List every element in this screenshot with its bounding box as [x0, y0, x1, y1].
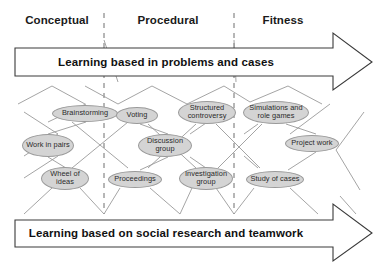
node-investigation-group[interactable]: Investigation group — [179, 167, 233, 190]
node-work-in-pairs[interactable]: Work in pairs — [22, 134, 74, 157]
column-header-procedural: Procedural — [110, 14, 226, 26]
node-proceedings[interactable]: Proceedings — [108, 171, 162, 188]
node-project-work[interactable]: Project work — [285, 135, 339, 152]
bottom-arrow-label: Learning based on social research and te… — [16, 227, 316, 239]
node-voting[interactable]: Voting — [116, 107, 158, 124]
diagram-canvas: Conceptual Procedural Fitness Learning b… — [0, 0, 382, 273]
column-header-conceptual: Conceptual — [14, 14, 100, 26]
node-wheel-of-ideas[interactable]: Wheel of ideas — [41, 167, 89, 190]
top-arrow-label: Learning based in problems and cases — [16, 56, 316, 68]
column-header-fitness: Fitness — [240, 14, 326, 26]
node-study-of-cases[interactable]: Study of cases — [246, 171, 304, 188]
node-simulations-role-games[interactable]: Simulations and role games — [243, 101, 309, 124]
node-structured-controversy[interactable]: Structured controversy — [178, 101, 236, 124]
node-brainstorming[interactable]: Brainstorming — [52, 105, 118, 122]
node-discussion-group[interactable]: Discussion group — [138, 134, 192, 157]
